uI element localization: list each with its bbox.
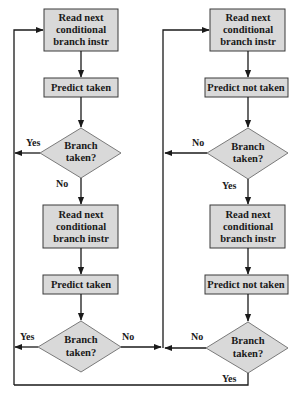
left-predict-taken-box-2: Predict taken	[43, 275, 118, 294]
left-decision-diamond-1: Branch taken?	[40, 128, 121, 178]
right-decision-2-no-label: No	[191, 331, 203, 342]
left-decision-1-line-1: Branch	[64, 140, 97, 151]
right-decision-2-yes-label: Yes	[222, 373, 237, 384]
right-read-1-line-1: Read next	[225, 12, 271, 23]
left-decision-2-yes-label: Yes	[20, 331, 35, 342]
left-decision-1-yes-label: Yes	[26, 137, 41, 148]
right-predict-2-label: Predict not taken	[207, 279, 285, 290]
right-read-instr-box-1: Read next conditional branch instr	[210, 9, 285, 51]
right-read-1-line-2: conditional	[223, 24, 273, 35]
left-read-2-line-2: conditional	[56, 221, 106, 232]
right-decision-1-line-2: taken?	[233, 153, 263, 164]
left-read-instr-box-2: Read next conditional branch instr	[43, 205, 118, 248]
left-read-1-line-1: Read next	[58, 12, 104, 23]
left-read-1-line-2: conditional	[56, 24, 106, 35]
right-decision-1-no-label: No	[192, 137, 204, 148]
branch-prediction-flowchart: Read next conditional branch instr Predi…	[0, 0, 303, 400]
left-decision-1-line-2: taken?	[66, 152, 96, 163]
right-read-2-line-3: branch instr	[220, 233, 276, 244]
right-feedback-loop-line	[163, 30, 209, 348]
left-predict-1-label: Predict taken	[51, 82, 111, 93]
left-read-instr-box-1: Read next conditional branch instr	[44, 9, 118, 51]
right-decision-diamond-2: Branch taken?	[206, 322, 288, 373]
left-predict-2-label: Predict taken	[51, 279, 111, 290]
left-read-1-line-3: branch instr	[53, 36, 109, 47]
right-decision-diamond-1: Branch taken?	[207, 128, 288, 179]
left-decision-1-no-label: No	[56, 178, 68, 189]
right-decision-1-line-1: Branch	[231, 141, 264, 152]
right-column: Read next conditional branch instr Predi…	[165, 9, 288, 384]
right-predict-1-label: Predict not taken	[207, 82, 285, 93]
left-decision-diamond-2: Branch taken?	[38, 321, 121, 372]
left-decision-2-no-label: No	[122, 331, 134, 342]
right-decision-2-line-2: taken?	[233, 348, 263, 359]
left-read-2-line-1: Read next	[58, 209, 104, 220]
right-read-2-line-1: Read next	[225, 209, 271, 220]
right-decision-2-line-1: Branch	[231, 335, 264, 346]
left-predict-taken-box-1: Predict taken	[44, 78, 118, 97]
left-decision-2-line-1: Branch	[64, 334, 97, 345]
bottom-return-line	[14, 373, 248, 385]
left-decision-2-line-2: taken?	[66, 347, 96, 358]
right-predict-not-taken-box-2: Predict not taken	[205, 275, 288, 294]
right-predict-not-taken-box-1: Predict not taken	[205, 78, 288, 97]
left-column: Read next conditional branch instr Predi…	[15, 9, 161, 372]
right-read-1-line-3: branch instr	[220, 36, 276, 47]
right-read-2-line-2: conditional	[223, 221, 273, 232]
right-decision-1-yes-label: Yes	[222, 180, 237, 191]
left-read-2-line-3: branch instr	[53, 233, 109, 244]
right-read-instr-box-2: Read next conditional branch instr	[210, 205, 285, 248]
